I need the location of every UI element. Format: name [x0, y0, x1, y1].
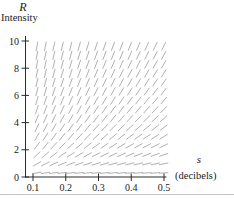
y-tick-label: 0: [14, 172, 19, 183]
y-tick-label: 4: [14, 117, 19, 128]
page-edge-line: [0, 194, 234, 195]
x-axis-unit-label: (decibels): [175, 171, 216, 182]
slope-field-plot: 02468100.10.20.30.40.5: [0, 0, 234, 198]
x-tick-label: 0.4: [125, 182, 138, 193]
y-tick-label: 10: [9, 36, 19, 47]
y-tick-label: 8: [14, 63, 19, 74]
x-tick-label: 0.3: [92, 182, 105, 193]
y-tick-label: 6: [14, 90, 19, 101]
y-tick-label: 2: [14, 144, 19, 155]
x-tick-label: 0.2: [60, 182, 73, 193]
x-axis-symbol: s: [192, 154, 206, 165]
x-tick-label: 0.1: [27, 182, 40, 193]
x-tick-label: 0.5: [158, 182, 171, 193]
slope-field-figure: R Intensity 02468100.10.20.30.40.5 s (de…: [0, 0, 234, 198]
slope-segments: [33, 42, 168, 174]
